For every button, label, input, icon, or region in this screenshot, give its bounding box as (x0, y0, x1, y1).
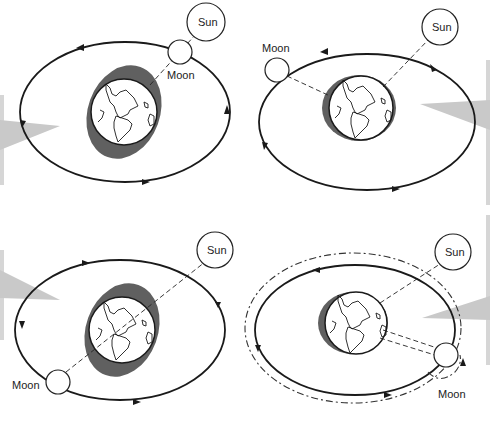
orbit-arrow-icon (460, 358, 466, 366)
orbit-arrow-icon (312, 267, 320, 273)
pointer-right (422, 296, 490, 320)
moon (265, 58, 289, 82)
moon-line (380, 338, 438, 356)
panel-top-left: Sun Moon (0, 3, 230, 185)
edge-bar-right (486, 60, 490, 205)
moon-line (383, 330, 437, 348)
earth (89, 297, 155, 363)
earth (329, 76, 393, 140)
sun-label: Sun (207, 244, 227, 256)
panel-top-right: Sun Moon (259, 9, 490, 205)
orbit-arrow-icon (320, 48, 328, 55)
sun-label: Sun (198, 16, 218, 28)
orbit-arrow-icon (19, 321, 25, 329)
alignment-line (383, 38, 430, 87)
moon (168, 40, 192, 64)
earth (91, 79, 157, 145)
moon-label: Moon (12, 379, 40, 391)
moon-label: Moon (167, 69, 195, 81)
edge-bar-right (486, 215, 490, 365)
pointer-right (420, 100, 490, 130)
sun-label: Sun (445, 246, 465, 258)
panel-bottom-right: Sun Moon (245, 215, 490, 403)
orbit-arrow-icon (430, 64, 437, 72)
orbit-arrow-icon (82, 260, 90, 266)
orbit-arrow-icon (384, 392, 392, 398)
moon-label: Moon (262, 42, 290, 54)
panel-bottom-left: Sun Moon (0, 232, 233, 405)
diagram-canvas: Sun Moon Sun Moon (0, 0, 490, 421)
moon-label: Moon (438, 388, 466, 400)
pointer-left (0, 120, 60, 150)
sun-label: Sun (432, 21, 452, 33)
pointer-left (0, 270, 60, 300)
alignment-line (380, 264, 440, 303)
moon (434, 343, 458, 367)
moon (46, 370, 70, 394)
moon-line (287, 76, 330, 96)
